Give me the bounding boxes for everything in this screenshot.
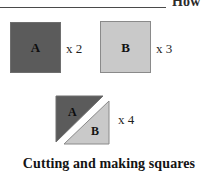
- split-square-graphic: [55, 95, 113, 145]
- figure-page: How A x 2 B x 3 A B x 4 Cutting and maki…: [0, 0, 218, 178]
- square-a: A: [10, 22, 61, 73]
- running-head: How: [0, 0, 218, 14]
- triangle-b-label: B: [91, 125, 99, 137]
- figure-caption: Cutting and making squares: [0, 156, 218, 172]
- square-a-label: A: [31, 41, 40, 54]
- square-b-multiplier: x 3: [156, 42, 172, 55]
- square-a-multiplier: x 2: [66, 42, 82, 55]
- square-b: B: [100, 21, 151, 73]
- square-b-label: B: [121, 41, 130, 54]
- running-head-text: How: [172, 0, 201, 6]
- triangle-a-label: A: [68, 106, 77, 118]
- split-square: A B: [55, 95, 113, 145]
- header-rule: [0, 7, 166, 8]
- split-square-multiplier: x 4: [118, 113, 134, 126]
